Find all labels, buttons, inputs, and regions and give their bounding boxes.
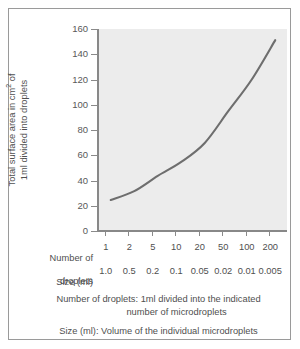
x-axis-droplet-count-label: 20 <box>188 240 212 254</box>
x-axis-droplet-size-label: 0.05 <box>188 264 212 278</box>
y-axis-tick-label: 140 <box>72 48 88 59</box>
data-curve <box>97 29 287 232</box>
footnote-1-line-1: Number of droplets: 1ml divided into the… <box>56 294 260 304</box>
x-axis-droplet-count-label: 5 <box>141 240 165 254</box>
x-axis-droplet-size-label: 0.01 <box>235 264 259 278</box>
y-axis-tick-label: 0 <box>83 225 88 236</box>
x-axis-droplet-count-row: 125102050100200 <box>97 240 287 260</box>
x-axis-droplet-count-label: 10 <box>164 240 188 254</box>
y-axis-tick-label: 20 <box>77 200 88 211</box>
y-axis-tick-label: 100 <box>72 99 88 110</box>
y-axis-title: Total surface area in cm2 of 1ml divided… <box>3 0 30 45</box>
footnote-size: Size (ml): Volume of the individual micr… <box>23 325 294 338</box>
y-axis-title-line1-end: of <box>7 74 17 84</box>
y-axis-title-superscript: 2 <box>5 84 12 88</box>
figure-frame: Total surface area in cm2 of 1ml divided… <box>8 8 291 340</box>
row-title-size: Size (ml) <box>21 265 93 288</box>
y-axis-title-line1: Total surface area in cm <box>7 88 17 187</box>
x-axis-droplet-size-row: 1.00.50.20.10.050.020.010.005 <box>97 264 287 284</box>
y-axis-tick-label: 40 <box>77 175 88 186</box>
x-axis-droplet-size-label: 0.2 <box>141 264 165 278</box>
x-axis-droplet-size-label: 0.02 <box>211 264 235 278</box>
y-axis-title-line2: 1ml divided into droplets <box>19 80 29 180</box>
footnote-2-text: Size (ml): Volume of the individual micr… <box>59 326 257 336</box>
figure-page: Total surface area in cm2 of 1ml divided… <box>0 0 300 349</box>
y-axis-tick-label: 80 <box>77 124 88 135</box>
footnote-1-line-2: number of microdroplets <box>23 306 294 319</box>
y-axis-tick-label: 120 <box>72 74 88 85</box>
x-axis-droplet-count-label: 50 <box>211 240 235 254</box>
row-title-line1: Number of <box>50 253 93 263</box>
x-axis-droplet-count-label: 2 <box>117 240 141 254</box>
x-axis-droplet-count-label: 100 <box>235 240 259 254</box>
x-axis-droplet-count-label: 1 <box>94 240 118 254</box>
x-axis-droplet-size-label: 0.1 <box>164 264 188 278</box>
x-axis-droplet-size-label: 1.0 <box>94 264 118 278</box>
row-title-size-label: Size (ml) <box>56 277 93 287</box>
y-axis-tick-label: 160 <box>72 23 88 34</box>
x-axis-droplet-count-label: 200 <box>258 240 282 254</box>
footnote-number-of-droplets: Number of droplets: 1ml divided into the… <box>23 293 294 318</box>
y-axis-tick-label: 60 <box>77 149 88 160</box>
x-axis-droplet-size-label: 0.005 <box>258 264 282 278</box>
x-axis-droplet-size-label: 0.5 <box>117 264 141 278</box>
x-axis-label-table: 125102050100200 1.00.50.20.10.050.020.01… <box>97 240 287 282</box>
